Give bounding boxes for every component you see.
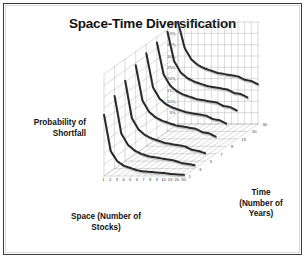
svg-text:9: 9 xyxy=(231,144,234,149)
y-axis-title-line-1: Probability of xyxy=(10,118,86,129)
svg-text:20: 20 xyxy=(252,129,257,134)
svg-text:4: 4 xyxy=(122,177,125,182)
grid-walls xyxy=(104,22,258,176)
y-axis-title: Probability of Shortfall xyxy=(10,118,86,139)
svg-text:15: 15 xyxy=(168,177,173,182)
z-axis-title-line-2: (Number of xyxy=(228,199,294,210)
svg-text:20: 20 xyxy=(174,177,179,182)
svg-text:7: 7 xyxy=(220,152,223,157)
svg-text:1: 1 xyxy=(102,177,105,182)
svg-text:7: 7 xyxy=(142,177,145,182)
svg-text:5: 5 xyxy=(129,177,132,182)
svg-text:10%: 10% xyxy=(167,99,176,104)
svg-text:10: 10 xyxy=(161,177,166,182)
svg-text:3: 3 xyxy=(116,177,119,182)
z-axis-title-line-1: Time xyxy=(228,188,294,199)
svg-text:15: 15 xyxy=(241,137,246,142)
svg-text:6: 6 xyxy=(136,177,139,182)
svg-text:45%: 45% xyxy=(167,20,176,25)
svg-text:30: 30 xyxy=(263,122,268,127)
svg-text:20%: 20% xyxy=(167,76,176,81)
svg-text:9: 9 xyxy=(156,177,159,182)
z-axis-title: Time (Number of Years) xyxy=(228,188,294,220)
chart-figure: Space-Time Diversification 0%5%10%15%20%… xyxy=(0,0,305,258)
svg-text:3: 3 xyxy=(199,167,202,172)
x-axis-title: Space (Number of Stocks) xyxy=(48,212,164,233)
svg-text:1: 1 xyxy=(189,174,192,179)
svg-text:2: 2 xyxy=(109,177,112,182)
x-axis-title-line-1: Space (Number of xyxy=(48,212,164,223)
svg-text:5: 5 xyxy=(210,159,213,164)
svg-text:8: 8 xyxy=(149,177,152,182)
y-axis-title-line-2: Shortfall xyxy=(10,129,86,140)
z-axis-title-line-3: Years) xyxy=(228,209,294,220)
svg-text:25%: 25% xyxy=(167,65,176,70)
x-axis-title-line-2: Stocks) xyxy=(48,223,164,234)
